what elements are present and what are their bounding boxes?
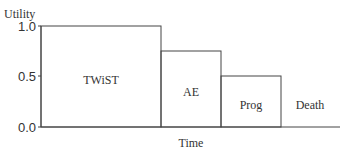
label-death: Death: [296, 98, 325, 112]
y-tick-0-0: 0.0: [18, 120, 36, 135]
label-twist: TWiST: [83, 73, 119, 87]
label-prog: Prog: [240, 98, 263, 112]
label-ae: AE: [183, 85, 199, 99]
y-tick-1-0: 1.0: [18, 19, 36, 34]
x-axis-label: Time: [179, 136, 204, 150]
utility-time-chart: Utility 1.0 0.5 0.0 TWiST AE Prog Death …: [0, 0, 350, 152]
y-tick-0-5: 0.5: [18, 69, 36, 84]
